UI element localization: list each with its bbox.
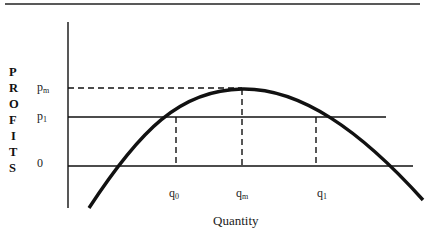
y-label-letter: O: [9, 97, 19, 111]
q1-label: q1: [317, 186, 327, 201]
qm-label: qm: [236, 186, 249, 201]
x-axis-label: Quantity: [213, 213, 259, 228]
y-label-letter: F: [9, 113, 17, 127]
y-axis-label: P R O F I T S: [9, 65, 19, 175]
pm-label: pm: [37, 80, 50, 95]
profit-diagram: P R O F I T S pm p1 0 q0 qm q1 Quantity: [0, 0, 429, 233]
y-label-letter: R: [9, 81, 19, 95]
y-label-letter: S: [9, 161, 16, 175]
profit-curve: [89, 89, 423, 208]
y-label-letter: T: [9, 145, 18, 159]
y-label-letter: I: [11, 129, 16, 143]
q0-label: q0: [169, 186, 179, 201]
zero-label: 0: [37, 156, 43, 170]
y-label-letter: P: [9, 65, 17, 79]
p1-label: p1: [37, 109, 47, 124]
